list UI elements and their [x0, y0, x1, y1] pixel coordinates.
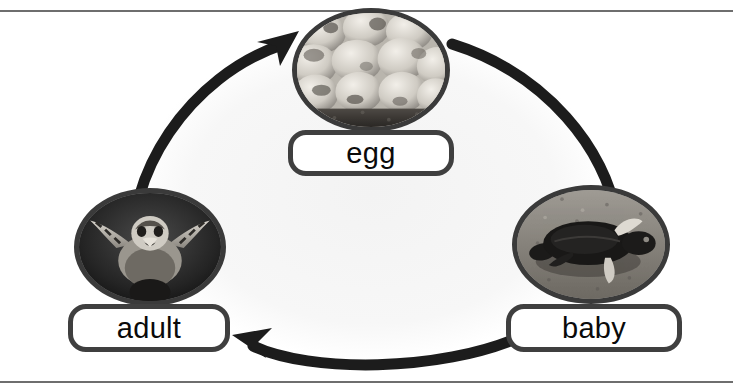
adult-sea-turtle-photo	[74, 188, 226, 306]
label-plate-adult[interactable]: adult	[68, 304, 230, 352]
label-plate-egg[interactable]: egg	[288, 130, 454, 176]
baby-sea-turtle-photo	[512, 185, 670, 304]
turtle-eggs-photo	[292, 8, 450, 132]
label-text-egg: egg	[346, 139, 395, 168]
label-text-baby: baby	[562, 314, 626, 343]
label-plate-baby[interactable]: baby	[506, 304, 682, 352]
label-text-adult: adult	[117, 314, 181, 343]
life-cycle-diagram: egg	[0, 0, 733, 392]
